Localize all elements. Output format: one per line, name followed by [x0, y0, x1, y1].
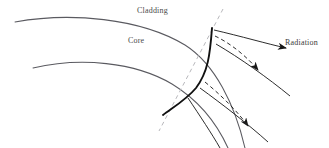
radiation-ray-1	[214, 30, 286, 48]
radiation-ray-group	[188, 30, 290, 148]
guided-ray-curve	[163, 28, 212, 115]
normal-dashed-line	[159, 9, 223, 131]
cladding-label: Cladding	[137, 6, 168, 15]
diagram-canvas	[0, 0, 329, 148]
radiation-ray-3	[216, 44, 290, 96]
core-label: Core	[128, 36, 144, 45]
radiation-label: Radiation	[285, 38, 318, 47]
radiation-ray-6	[188, 98, 220, 148]
radiation-ray-5	[200, 88, 268, 142]
radiation-ray-2	[215, 36, 258, 70]
core-boundary-curve	[33, 62, 228, 148]
bend-loss-fiber-diagram: Cladding Core Radiation	[0, 0, 329, 148]
